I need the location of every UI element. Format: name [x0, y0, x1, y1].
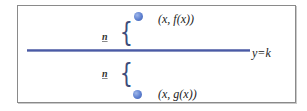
upper-brace-icon: { [120, 19, 133, 45]
lower-distance-label: n [102, 69, 108, 79]
upper-point-dot [134, 12, 143, 21]
horizontal-line-y-equals-k [27, 49, 250, 52]
lower-brace-icon: { [120, 60, 133, 86]
upper-point-label: (x, f(x)) [158, 13, 194, 25]
lower-point-label: (x, g(x)) [158, 88, 197, 100]
lower-point-dot [133, 90, 142, 99]
upper-distance-label: n [102, 32, 108, 42]
line-label: y=k [252, 47, 271, 59]
